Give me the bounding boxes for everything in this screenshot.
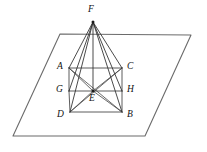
- edge-F-G: [69, 22, 93, 91]
- vertex-label-g: G: [56, 85, 63, 95]
- edge-F-C: [93, 22, 122, 68]
- edge-G-D: [69, 91, 70, 112]
- vertex-label-a: A: [57, 62, 63, 72]
- edge-layer: [69, 22, 122, 112]
- vertex-label-f: F: [88, 5, 94, 15]
- vertex-label-d: D: [57, 110, 64, 120]
- geometry-figure: FACGHEDB: [0, 0, 207, 152]
- vertex-dot-f: [92, 21, 95, 24]
- vertex-label-e: E: [89, 94, 95, 104]
- figure-canvas: [0, 0, 207, 152]
- vertex-label-h: H: [127, 85, 134, 95]
- edge-F-A: [69, 22, 93, 68]
- vertex-label-b: B: [127, 110, 133, 120]
- vertex-label-c: C: [127, 62, 133, 72]
- edge-F-B: [93, 22, 122, 112]
